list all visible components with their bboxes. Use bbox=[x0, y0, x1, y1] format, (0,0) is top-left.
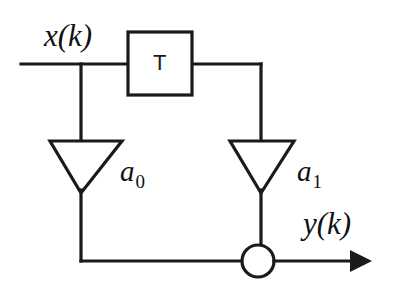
input-signal-label: x(k) bbox=[44, 20, 92, 51]
delay-block-label: T bbox=[153, 52, 166, 74]
amplifier-a0-triangle bbox=[50, 141, 122, 193]
gain-a1-label: a1 bbox=[297, 157, 321, 186]
summing-junction-circle bbox=[242, 245, 274, 277]
gain-a1-subscript: 1 bbox=[313, 171, 323, 192]
output-signal-label: y(k) bbox=[303, 208, 351, 239]
amplifier-a1-triangle bbox=[230, 141, 294, 193]
output-arrow-icon bbox=[350, 250, 372, 272]
filter-block-diagram: x(k) y(k) a0 a1 T bbox=[0, 0, 396, 292]
gain-a0-subscript: 0 bbox=[136, 171, 146, 192]
gain-a0-label: a0 bbox=[120, 157, 144, 186]
gain-a0-base: a bbox=[120, 155, 135, 187]
gain-a1-base: a bbox=[297, 155, 312, 187]
